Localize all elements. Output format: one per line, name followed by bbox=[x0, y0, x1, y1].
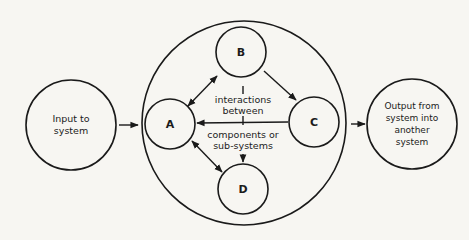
component-b-label: B bbox=[237, 47, 245, 59]
output-node-label: Output from system into another system bbox=[384, 100, 441, 148]
component-d-label: D bbox=[238, 184, 247, 196]
edge-a-b bbox=[188, 76, 217, 106]
center-label-bottom: components or sub-systems bbox=[206, 129, 279, 151]
center-label-top: interactions between bbox=[214, 94, 272, 116]
input-node-label: Input to system bbox=[52, 113, 89, 137]
component-a-label: A bbox=[166, 119, 175, 131]
component-c-label: C bbox=[310, 117, 318, 129]
